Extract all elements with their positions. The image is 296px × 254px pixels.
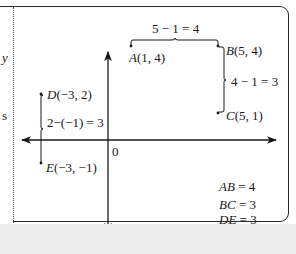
brace-de-icon bbox=[40, 95, 43, 163]
page-bottom-band bbox=[0, 224, 296, 254]
distance-bc-annotation: 4 − 1 = 3 bbox=[231, 75, 278, 88]
point-a-dot bbox=[130, 45, 133, 48]
point-a-label: A(1, 4) bbox=[129, 51, 165, 64]
point-b-label: B(5, 4) bbox=[226, 44, 262, 57]
distance-ab-annotation: 5 − 1 = 4 bbox=[152, 22, 199, 35]
point-d-label: D(−3, 2) bbox=[47, 88, 92, 101]
origin-label: 0 bbox=[112, 145, 119, 158]
result-bc: BC = 3 bbox=[219, 198, 256, 211]
point-e-label: E(−3, −1) bbox=[46, 161, 97, 174]
point-b-dot bbox=[217, 45, 220, 48]
point-c-dot bbox=[217, 112, 220, 115]
brace-bc-icon bbox=[219, 47, 226, 112]
brace-ab-icon bbox=[131, 38, 218, 45]
point-c-label: C(5, 1) bbox=[226, 109, 263, 122]
distance-de-annotation: 2−(−1) = 3 bbox=[47, 116, 104, 129]
result-ab: AB = 4 bbox=[219, 180, 255, 193]
